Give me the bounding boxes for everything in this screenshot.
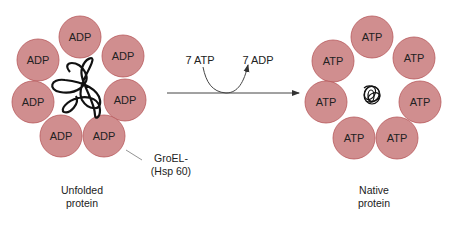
subunit-label: ADP: [15, 96, 51, 109]
native-caption-line2: protein: [344, 197, 404, 210]
subunit-label: ATP: [379, 132, 415, 145]
subunit-label: ADP: [43, 130, 79, 143]
subunit-label: ADP: [20, 54, 56, 67]
subunit-label: ATP: [336, 132, 372, 145]
subunit-label: ATP: [396, 52, 432, 65]
subunit-label: ADP: [105, 50, 141, 63]
groel-label-line2: (Hsp 60): [146, 165, 196, 178]
subunit-label: ATP: [308, 96, 344, 109]
subunit-label: ADP: [86, 130, 122, 143]
subunit-label: ATP: [315, 55, 351, 68]
unfolded-caption-line2: protein: [52, 197, 112, 210]
native-caption-line1: Native: [344, 184, 404, 197]
groel-pointer-line: [126, 150, 142, 160]
atp-input-label: 7 ATP: [180, 54, 220, 67]
groel-label-line1: GroEL-: [146, 152, 196, 165]
atp-hydrolysis-curve-arrow: [203, 65, 248, 93]
unfolded-caption-line1: Unfolded: [52, 184, 112, 197]
subunit-label: ATP: [354, 31, 390, 44]
subunit-label: ADP: [107, 94, 143, 107]
adp-output-label: 7 ADP: [236, 54, 280, 67]
subunit-label: ADP: [62, 31, 98, 44]
subunit-label: ATP: [402, 96, 438, 109]
native-protein-coil: [362, 84, 381, 104]
unfolded-protein-chain: [52, 58, 100, 118]
